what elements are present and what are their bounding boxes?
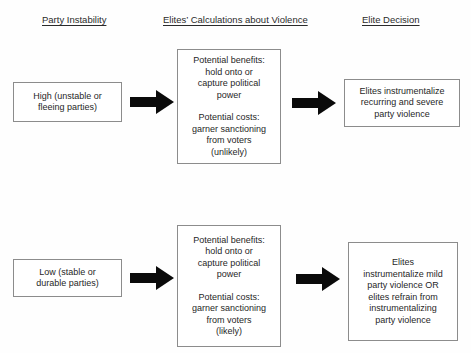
box-calculations-low: Potential benefits: hold onto or capture…	[177, 225, 281, 347]
outcome-low-line1: Elites	[392, 257, 414, 269]
calc-high-benefits-line1: hold onto or	[205, 67, 253, 79]
box-condition-high-line2: fleeing parties)	[38, 102, 97, 114]
calc-high-costs-line2: from voters	[206, 135, 251, 147]
calc-low-likelihood: (likely)	[216, 326, 242, 338]
right-arrow-icon-high-to-calc	[130, 90, 174, 114]
outcome-low-line6: party violence	[375, 315, 431, 327]
column-header-party-instability: Party Instability	[42, 14, 106, 25]
calc-low-costs-line1: garner sanctioning	[192, 303, 266, 315]
outcome-low-line5: instrumentalizing	[369, 303, 437, 315]
calc-high-costs-line1: garner sanctioning	[192, 124, 266, 136]
outcome-low-line4: elites refrain from	[368, 292, 438, 304]
calc-low-benefits-line3: power	[217, 269, 242, 281]
box-calculations-high: Potential benefits: hold onto or capture…	[177, 49, 281, 164]
right-arrow-icon-low-to-calc	[130, 266, 174, 290]
box-condition-high: High (unstable or fleeing parties)	[13, 82, 122, 122]
column-header-elites-calculations: Elites’ Calculations about Violence	[163, 14, 308, 25]
outcome-high-line2: recurring and severe	[361, 97, 444, 109]
outcome-high-line1: Elites instrumentalize	[359, 86, 444, 98]
box-condition-high-line1: High (unstable or	[33, 91, 102, 103]
calc-low-benefits-line1: hold onto or	[205, 246, 253, 258]
outcome-high-line3: party violence	[374, 109, 430, 121]
outcome-low-line2: instrumentalize mild	[363, 269, 443, 281]
box-outcome-high: Elites instrumentalize recurring and sev…	[344, 79, 460, 127]
right-arrow-icon-calc-to-outcome	[292, 91, 336, 115]
column-header-elite-decision: Elite Decision	[362, 14, 420, 25]
box-condition-low: Low (stable or durable parties)	[13, 259, 122, 297]
box-condition-low-line2: durable parties)	[36, 278, 99, 290]
calc-high-costs-label: Potential costs:	[198, 112, 259, 124]
calc-low-costs-label: Potential costs:	[198, 292, 259, 304]
calc-high-benefits-line3: power	[217, 90, 242, 102]
calc-low-benefits-line2: capture political	[198, 258, 261, 270]
box-condition-low-line1: Low (stable or	[39, 267, 96, 279]
calc-high-likelihood: (unlikely)	[211, 147, 247, 159]
calc-low-costs-line2: from voters	[206, 315, 251, 327]
right-arrow-icon-calclow-to-outcome	[296, 267, 340, 291]
outcome-low-line3: party violence OR	[367, 280, 439, 292]
calc-high-benefits-label: Potential benefits:	[193, 55, 265, 67]
flowchart-canvas: Party Instability Elites’ Calculations a…	[0, 0, 471, 353]
box-outcome-low: Elites instrumentalize mild party violen…	[348, 242, 458, 341]
calc-high-benefits-line2: capture political	[198, 78, 261, 90]
calc-low-benefits-label: Potential benefits:	[193, 235, 265, 247]
